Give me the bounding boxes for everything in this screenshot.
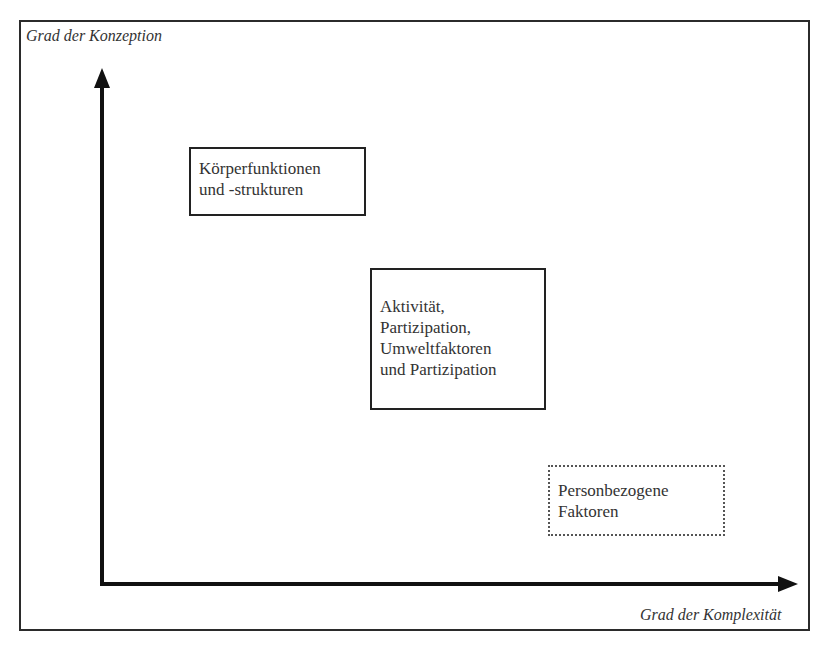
box-koerperfunktionen: Körperfunktionen und -strukturen bbox=[189, 147, 366, 216]
box-text-line: Aktivität, bbox=[380, 296, 536, 317]
box-text-line: und -strukturen bbox=[199, 179, 356, 200]
box-text-line: Umweltfaktoren bbox=[380, 338, 536, 359]
x-axis-label: Grad der Komplexität bbox=[640, 606, 781, 624]
box-text-line: Körperfunktionen bbox=[199, 158, 356, 179]
box-personbezogene: Personbezogene Faktoren bbox=[548, 465, 725, 536]
box-text-line: und Partizipation bbox=[380, 359, 536, 380]
box-aktivitaet: Aktivität, Partizipation, Umweltfaktoren… bbox=[370, 268, 546, 410]
x-axis-arrow bbox=[100, 576, 798, 592]
y-axis-arrow bbox=[94, 68, 110, 584]
box-text-line: Faktoren bbox=[558, 501, 715, 522]
box-text-line: Partizipation, bbox=[380, 317, 536, 338]
box-text-line: Personbezogene bbox=[558, 480, 715, 501]
